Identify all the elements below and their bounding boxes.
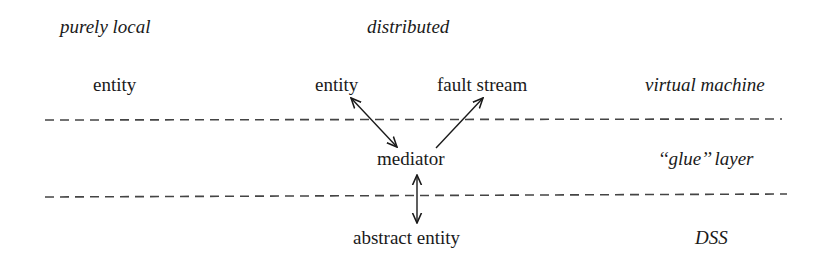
separator-lower (45, 194, 787, 197)
arrow-mediator-fault-stream (436, 98, 483, 148)
arrow-entity-mediator (351, 98, 397, 147)
diagram-lines (0, 0, 825, 259)
separator-upper (45, 119, 782, 120)
